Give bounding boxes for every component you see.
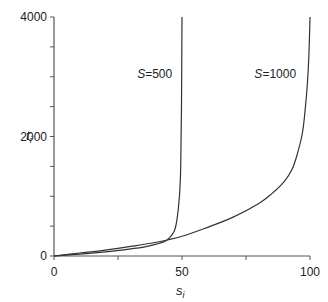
x-axis-label: si: [176, 283, 186, 300]
x-axis: 050100: [51, 256, 321, 279]
x-tick-label: 50: [175, 265, 189, 279]
curve-s500: [54, 17, 182, 256]
y-tick-label: 2000: [20, 130, 47, 144]
curve-label: S=1000: [254, 67, 296, 81]
curve-labels: S=500S=1000: [137, 67, 296, 81]
x-tick-label: 0: [51, 265, 58, 279]
x-tick-label: 100: [300, 265, 320, 279]
plot-lines: [54, 17, 310, 256]
y-tick-label: 4000: [20, 10, 47, 24]
curve-label: S=500: [137, 67, 172, 81]
y-tick-label: 0: [40, 249, 47, 263]
chart-container: 020004000 050100 S=500S=1000 ti si: [0, 0, 328, 302]
